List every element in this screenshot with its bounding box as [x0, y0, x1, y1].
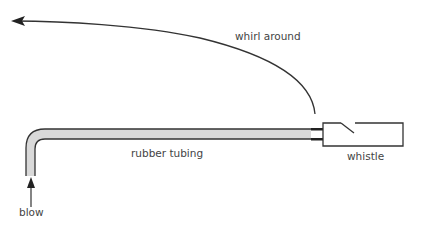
label-whistle: whistle: [347, 150, 384, 162]
whistle-body: [323, 123, 403, 146]
tube-connector: [311, 128, 323, 131]
label-rubber-tubing: rubber tubing: [131, 147, 203, 159]
whistle-diagram: whirl around rubber tubing whistle blow: [0, 0, 428, 231]
tube-connector-bottom: [311, 138, 323, 141]
label-whirl-around: whirl around: [235, 30, 301, 42]
blow-arrowhead-icon: [27, 177, 35, 188]
label-blow: blow: [19, 206, 44, 218]
whistle-notch: [341, 123, 354, 133]
